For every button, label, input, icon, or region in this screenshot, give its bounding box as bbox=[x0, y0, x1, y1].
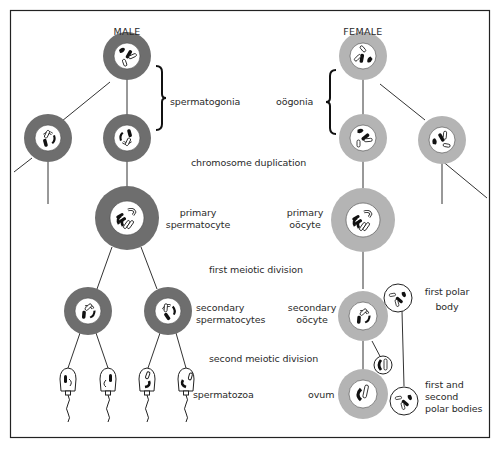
polar-bodies-label-line1: first and bbox=[425, 379, 464, 391]
oogonia-bracket bbox=[326, 70, 336, 134]
spermatozoa-label: spermatozoa bbox=[193, 389, 254, 401]
male-column-title: MALE bbox=[107, 26, 147, 38]
spermatogonia-bracket bbox=[156, 66, 166, 130]
spermatozoon-2 bbox=[100, 368, 116, 422]
secondary-oocyte-label-line1: secondary bbox=[287, 302, 337, 314]
female-column-title: FEMALE bbox=[337, 26, 389, 38]
primary-oocyte-label-line1: primary bbox=[280, 207, 330, 219]
second-meiotic-division-label: second meiotic division bbox=[209, 353, 318, 365]
first-meiotic-division-label: first meiotic division bbox=[209, 264, 303, 276]
secondary-oocyte-label-line2: oöcyte bbox=[287, 314, 337, 326]
primary-spermatocyte-label-line1: primary bbox=[163, 207, 233, 219]
first-polar-body-label-line2: body bbox=[417, 301, 477, 313]
female-oogonium-right bbox=[418, 116, 466, 164]
secondary-spermatocytes-label-line1: secondary bbox=[196, 302, 244, 314]
ovum-label: ovum bbox=[308, 389, 334, 401]
female-secondary-oocyte bbox=[338, 291, 388, 341]
female-primary-oocyte bbox=[331, 188, 395, 252]
male-primary-spermatocyte bbox=[95, 186, 159, 250]
spermatozoon-1 bbox=[60, 368, 76, 422]
male-secondary-spermatocyte-left bbox=[64, 287, 112, 335]
gametogenesis-diagram: MALE FEMALE spermatogonia oögonia chromo… bbox=[0, 0, 498, 450]
chromosome-duplication-label: chromosome duplication bbox=[191, 157, 306, 169]
male-spermatogonium-right bbox=[103, 114, 151, 162]
primary-oocyte-label-line2: oöcyte bbox=[280, 219, 330, 231]
male-spermatogonium-top bbox=[103, 32, 151, 80]
female-oogonium-bottom bbox=[339, 114, 387, 162]
diagram-frame bbox=[11, 11, 490, 438]
secondary-spermatocytes-label-line2: spermatocytes bbox=[196, 314, 265, 326]
spermatozoon-3 bbox=[139, 368, 155, 422]
oogonia-label: oögonia bbox=[276, 96, 313, 108]
primary-spermatocyte-label-line2: spermatocyte bbox=[163, 219, 233, 231]
polar-bodies-label-line2: second bbox=[425, 391, 458, 403]
female-oogonium-top bbox=[339, 32, 387, 80]
female-first-polar-body bbox=[384, 284, 412, 312]
spermatozoon-4 bbox=[178, 368, 194, 422]
female-ovum bbox=[338, 369, 388, 419]
spermatozoa-group bbox=[60, 368, 194, 422]
polar-bodies-label-line3: polar bodies bbox=[425, 403, 482, 415]
female-first-polar-body-divided bbox=[390, 387, 418, 415]
female-second-polar-body bbox=[374, 356, 392, 374]
male-spermatogonium-left bbox=[24, 114, 72, 162]
spermatogonia-label: spermatogonia bbox=[170, 96, 240, 108]
male-secondary-spermatocyte-right bbox=[144, 287, 192, 335]
first-polar-body-label-line1: first polar bbox=[417, 286, 477, 298]
diagram-canvas bbox=[0, 0, 498, 450]
